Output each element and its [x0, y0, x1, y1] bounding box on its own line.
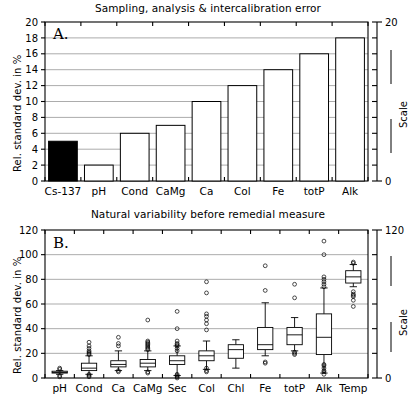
y-tick-label: 2 [32, 160, 38, 171]
box [81, 363, 96, 370]
outlier-point [293, 282, 297, 286]
outlier-point [263, 289, 267, 293]
panel-a-letter: A. [52, 25, 69, 43]
box [228, 345, 243, 359]
x-tick-label-Alk: Alk [342, 185, 359, 197]
bar-totP [300, 54, 329, 181]
outlier-point [87, 344, 91, 348]
bar-Ca [192, 102, 221, 182]
outlier-point [205, 322, 209, 326]
box [287, 327, 302, 344]
outlier-point [351, 305, 355, 309]
box [258, 327, 273, 349]
boxplot-Ca [111, 335, 126, 373]
x-tick-label-totP: totP [304, 185, 325, 197]
outlier-point [117, 335, 121, 339]
bar-pH [84, 165, 113, 181]
bar-Cs-137 [49, 141, 78, 181]
outlier-point [322, 275, 326, 279]
x-tick-label-Fe: Fe [272, 185, 284, 197]
y-tick-label: 40 [25, 323, 38, 334]
outlier-point [351, 290, 355, 294]
right-axis-top-label: 20 [385, 17, 398, 28]
x-tick-label-Temp: Temp [338, 382, 367, 394]
outlier-point [87, 340, 91, 344]
x-tick-label-pH: pH [92, 185, 107, 197]
right-axis-bottom-label: 0 [385, 176, 391, 187]
x-tick-label-Fe: Fe [259, 382, 271, 394]
y-tick-label: 120 [19, 225, 38, 236]
bar-CaMg [156, 125, 185, 181]
outlier-point [322, 239, 326, 243]
right-axis-bottom-label: 0 [385, 373, 391, 384]
right-axis-top-label: 120 [385, 225, 404, 236]
boxplot-pH [52, 366, 67, 378]
outlier-point [205, 291, 209, 295]
y-tick-label: 18 [25, 33, 38, 44]
y-tick-label: 16 [25, 48, 38, 59]
outlier-point [205, 312, 209, 316]
panel-b-plot: 020406080100120pHCondCaCaMgSecColChlFeto… [0, 206, 416, 413]
box [170, 356, 185, 365]
y-tick-label: 0 [32, 176, 38, 187]
boxplot-Cond [81, 340, 96, 378]
outlier-point [117, 342, 121, 346]
outlier-point [205, 280, 209, 284]
bar-Alk [336, 38, 365, 181]
panel-b-box-chart: Natural variability before remedial meas… [0, 206, 416, 413]
x-tick-label-Chl: Chl [227, 382, 244, 394]
y-tick-label: 12 [25, 80, 38, 91]
panel-a-plot: 02468101214161820Cs-137pHCondCaMgCaColFe… [0, 0, 416, 206]
x-tick-label-CaMg: CaMg [156, 185, 186, 197]
boxplot-totP [287, 282, 302, 356]
x-tick-label-Col: Col [234, 185, 251, 197]
y-tick-label: 60 [25, 299, 38, 310]
box [111, 361, 126, 367]
panel-b-letter: B. [53, 234, 69, 252]
y-tick-label: 0 [32, 373, 38, 384]
x-tick-label-Alk: Alk [316, 382, 333, 394]
y-tick-label: 10 [25, 96, 38, 107]
x-tick-label-Ca: Ca [200, 185, 214, 197]
boxplot-Alk [316, 239, 331, 376]
y-tick-label: 6 [32, 128, 38, 139]
outlier-point [205, 318, 209, 322]
x-tick-label-Col: Col [198, 382, 215, 394]
boxplot-CaMg [140, 318, 155, 375]
x-tick-label-CaMg: CaMg [133, 382, 163, 394]
bar-Cond [120, 133, 149, 181]
x-tick-label-totP: totP [284, 382, 305, 394]
x-tick-label-Ca: Ca [112, 382, 126, 394]
outlier-point [293, 296, 297, 300]
y-tick-label: 20 [25, 348, 38, 359]
outlier-point [146, 318, 150, 322]
boxplot-Chl [228, 340, 243, 368]
bar-Col [228, 86, 257, 181]
panel-a-bar-chart: Sampling, analysis & intercalibration er… [0, 0, 416, 206]
y-tick-label: 100 [19, 249, 38, 260]
y-tick-label: 80 [25, 274, 38, 285]
x-tick-label-Sec: Sec [168, 382, 187, 394]
x-tick-label-Cond: Cond [121, 185, 148, 197]
boxplot-Temp [346, 260, 361, 308]
y-tick-label: 4 [32, 144, 38, 155]
outlier-point [175, 310, 179, 314]
x-tick-label-pH: pH [52, 382, 67, 394]
outlier-point [263, 264, 267, 268]
figure-container: Sampling, analysis & intercalibration er… [0, 0, 416, 413]
x-tick-label-Cs-137: Cs-137 [45, 185, 82, 197]
y-tick-label: 20 [25, 17, 38, 28]
y-tick-label: 8 [32, 112, 38, 123]
outlier-point [175, 339, 179, 343]
bar-Fe [264, 70, 293, 181]
box [316, 314, 331, 355]
x-tick-label-Cond: Cond [76, 382, 103, 394]
boxplot-Col [199, 280, 214, 374]
outlier-point [351, 298, 355, 302]
y-tick-label: 14 [25, 64, 38, 75]
boxplot-Sec [170, 310, 185, 380]
